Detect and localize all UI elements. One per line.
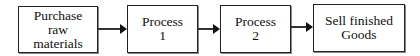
- node-label-line: Process: [235, 15, 276, 29]
- node-sell-finished-goods: Sell finished Goods: [313, 4, 405, 52]
- node-label-line: 1: [159, 29, 166, 43]
- node-label-line: Goods: [341, 28, 376, 42]
- node-process-1: Process 1: [127, 5, 198, 53]
- node-label-line: Sell finished: [325, 14, 393, 28]
- node-process-2: Process 2: [220, 5, 291, 53]
- connector-line: [291, 26, 306, 28]
- node-label-line: Purchase: [34, 9, 83, 23]
- arrowhead-icon: [306, 22, 313, 32]
- node-label-line: Process: [142, 15, 183, 29]
- node-label-line: materials: [33, 37, 82, 51]
- node-label-line: raw: [48, 23, 68, 37]
- arrowhead-icon: [120, 24, 127, 34]
- connector-line: [98, 28, 120, 30]
- node-label-line: 2: [252, 29, 259, 43]
- node-purchase-raw-materials: Purchase raw materials: [18, 6, 98, 53]
- connector-line: [198, 28, 213, 30]
- arrowhead-icon: [213, 24, 220, 34]
